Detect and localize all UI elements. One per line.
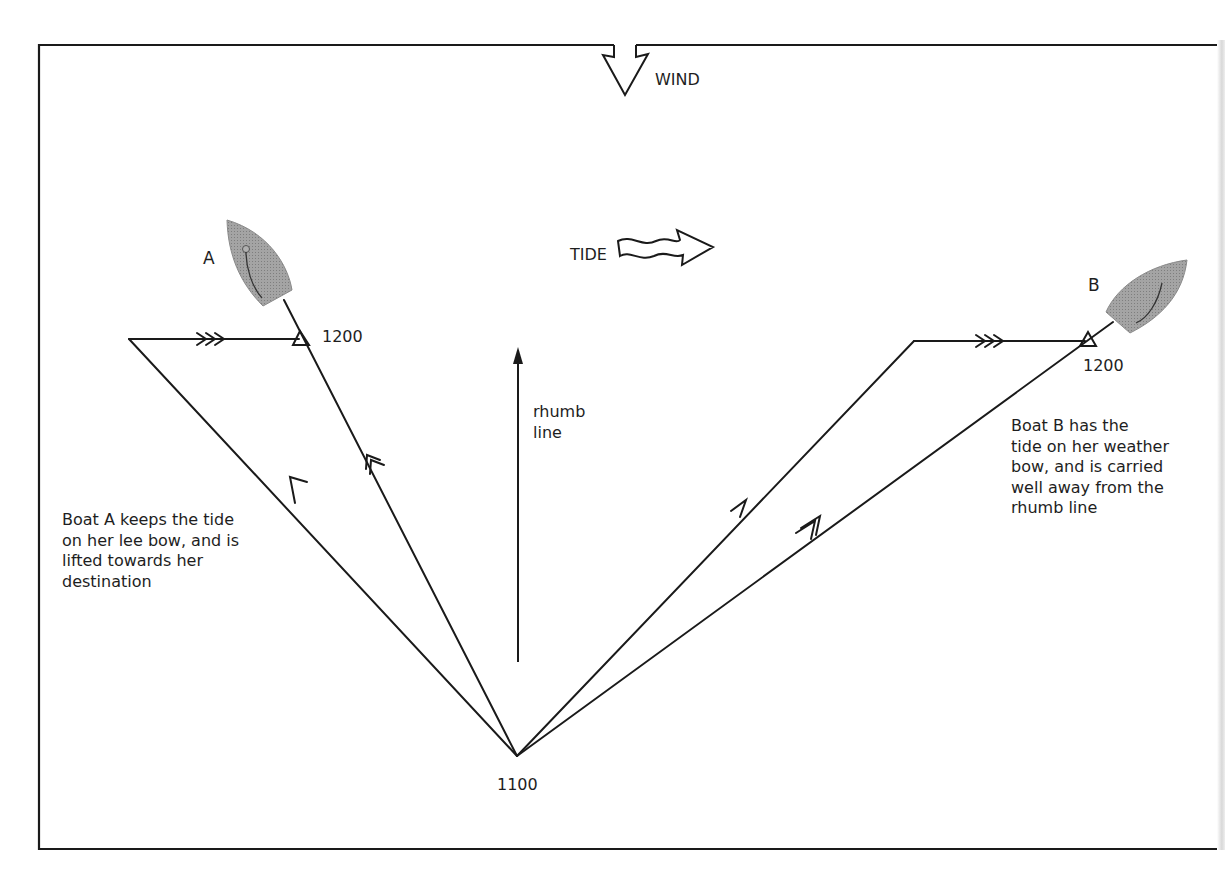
boat-b-label: B bbox=[1088, 275, 1100, 295]
boat-b-track bbox=[517, 322, 1113, 756]
rhumb-line-arrow bbox=[513, 347, 523, 662]
start-time-1100: 1100 bbox=[497, 775, 538, 795]
boat-b-caption: Boat B has the tide on her weather bow, … bbox=[1011, 416, 1169, 519]
boat-a-caption: Boat A keeps the tide on her lee bow, an… bbox=[62, 510, 239, 592]
boat-a-time-1200: 1200 bbox=[322, 327, 363, 347]
boat-a-label: A bbox=[203, 248, 215, 268]
rhumb-line-label: rhumb line bbox=[533, 402, 585, 443]
tide-arrow-icon bbox=[618, 230, 713, 265]
tide-label: TIDE bbox=[570, 245, 607, 265]
wind-arrow-icon bbox=[603, 45, 648, 95]
page-edge-shadow bbox=[1217, 40, 1225, 850]
boat-b-icon bbox=[1106, 260, 1187, 333]
boat-b-time-1200: 1200 bbox=[1083, 356, 1124, 376]
wind-label: WIND bbox=[655, 70, 700, 90]
boat-a-position-marker bbox=[293, 331, 309, 345]
boat-a-icon bbox=[227, 220, 292, 306]
